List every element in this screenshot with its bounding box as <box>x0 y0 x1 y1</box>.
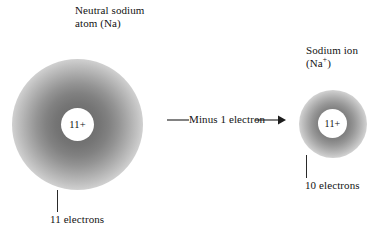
reaction-arrow-label: Minus 1 electron <box>189 113 265 126</box>
sodium-ion-formula-suffix: ) <box>327 57 331 69</box>
neutral-atom-caption-line2: atom (Na) <box>75 17 145 30</box>
sodium-ion-caption-line1: Sodium ion <box>306 44 358 56</box>
sodium-ion-formula-prefix: (Na <box>306 57 323 69</box>
neutral-atom-nucleus: 11+ <box>61 108 94 141</box>
arrowhead-icon <box>278 116 286 125</box>
figure-canvas: Neutral sodium atom (Na) Sodium ion (Na+… <box>0 0 379 240</box>
sodium-ion-caption-line2: (Na+) <box>306 57 358 70</box>
sodium-ion-caption: Sodium ion (Na+) <box>306 44 358 70</box>
neutral-atom-caption: Neutral sodium atom (Na) <box>75 4 145 30</box>
neutral-atom-electron-count-label: 11 electrons <box>50 213 104 226</box>
neutral-atom-caption-line1: Neutral sodium <box>75 4 145 16</box>
sodium-ion-nucleus-charge-label: 11+ <box>325 118 341 129</box>
sodium-ion-electron-count-label: 10 electrons <box>305 179 360 192</box>
neutral-atom-leader-line <box>57 190 58 212</box>
neutral-atom-nucleus-charge-label: 11+ <box>69 119 86 130</box>
sodium-ion-leader-line <box>306 155 307 178</box>
sodium-ion-nucleus: 11+ <box>318 109 347 138</box>
